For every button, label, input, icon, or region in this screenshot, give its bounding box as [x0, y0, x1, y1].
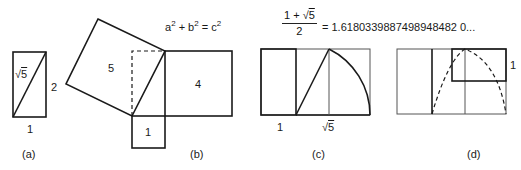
- panel-a-height-label: 2: [51, 82, 57, 93]
- eq-b: + b: [176, 21, 195, 33]
- pythagorean-equation: a2 + b2 = c2: [165, 22, 221, 33]
- fraction-numerator: 1 + √5: [282, 10, 317, 24]
- panel-a-caption: (a): [22, 149, 35, 160]
- panel-a-width-label: 1: [27, 124, 33, 135]
- panel-a-diagonal: [13, 52, 46, 117]
- panel-d-figure: [397, 49, 506, 114]
- panel-c-caption: (c): [312, 149, 325, 160]
- panel-c-unit-rectangle: [261, 49, 296, 115]
- panel-b-short-leg-square-label: 1: [145, 127, 151, 138]
- radicand: 5: [309, 9, 315, 21]
- panel-c-width-label-right: √5: [322, 122, 334, 133]
- panel-c-diagonal: [296, 49, 329, 115]
- golden-ratio-value: = 1.6180339887498948482 0...: [322, 22, 475, 33]
- eq-c: = c: [199, 21, 217, 33]
- panel-b-caption: (b): [190, 149, 203, 160]
- eq-c-exp: 2: [217, 19, 221, 28]
- panel-b-hypotenuse-square-label: 5: [108, 63, 114, 74]
- panel-b-hypotenuse-square: [66, 19, 165, 116]
- panel-b-long-leg-square-label: 4: [195, 79, 201, 90]
- panel-d-caption: (d): [467, 149, 480, 160]
- panel-c-outer-rectangle: [261, 49, 370, 115]
- radicand: 5: [21, 68, 27, 80]
- panel-c-arc: [329, 49, 370, 115]
- panel-c-width-label-left: 1: [277, 122, 283, 133]
- panel-c-figure: [261, 49, 370, 115]
- fraction-denominator: 2: [282, 24, 317, 37]
- panel-d-side-label: 1: [510, 60, 516, 71]
- numerator-prefix: 1 +: [284, 9, 303, 21]
- panel-a-figure: [13, 52, 46, 117]
- radicand: 5: [328, 121, 334, 133]
- golden-ratio-fraction: 1 + √5 2: [282, 10, 317, 37]
- panel-a-diagonal-label: √5: [15, 69, 27, 80]
